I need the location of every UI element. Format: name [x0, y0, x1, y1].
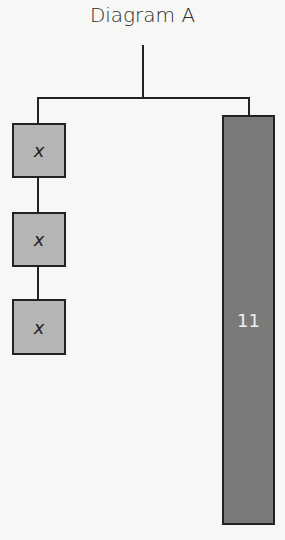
eleven-bar: 11: [222, 115, 275, 525]
root-connector: [142, 45, 144, 98]
left-branch-connector: [37, 97, 39, 124]
x-block-3: x: [12, 299, 66, 355]
eleven-bar-label: 11: [237, 310, 260, 331]
x-block-2: x: [12, 212, 66, 267]
x-block-label: x: [34, 140, 45, 161]
diagram-title: Diagram A: [0, 3, 285, 27]
box-connector-1-2: [37, 177, 39, 213]
horizontal-connector: [37, 97, 250, 99]
box-connector-2-3: [37, 265, 39, 300]
right-branch-connector: [248, 97, 250, 116]
x-block-label: x: [34, 229, 45, 250]
x-block-1: x: [12, 123, 66, 178]
x-block-label: x: [34, 317, 45, 338]
